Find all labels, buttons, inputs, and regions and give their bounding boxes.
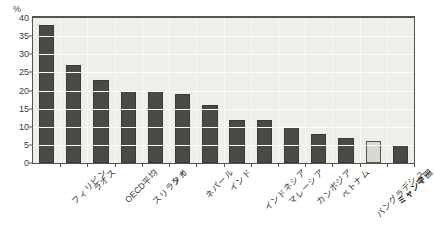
y-axis-tick-mark (29, 126, 33, 127)
bar (39, 25, 54, 163)
y-axis-tick-mark (29, 163, 33, 164)
gridline-vertical (115, 18, 116, 163)
y-axis-tick-label: 40 (19, 13, 29, 23)
y-axis-tick-label: 35 (19, 31, 29, 41)
gridline-vertical (305, 18, 306, 163)
plot-area: 0510152025303540 (32, 16, 415, 164)
bar (202, 105, 217, 163)
gridline-vertical (87, 18, 88, 163)
y-axis-tick-mark (29, 108, 33, 109)
y-axis-tick-mark (29, 90, 33, 91)
y-axis-tick-label: 20 (19, 86, 29, 96)
y-axis-tick-mark (29, 36, 33, 37)
gridline-vertical (332, 18, 333, 163)
gridline-vertical (251, 18, 252, 163)
y-axis-tick-label: 30 (19, 49, 29, 59)
y-axis-tick-label: 15 (19, 104, 29, 114)
gridline-vertical (360, 18, 361, 163)
gridline-vertical (387, 18, 388, 163)
gridline-vertical (169, 18, 170, 163)
y-axis-tick-label: 10 (19, 122, 29, 132)
y-axis-tick-label: 25 (19, 67, 29, 77)
y-axis-tick-mark (29, 144, 33, 145)
x-axis-tick-label: ラオス (90, 166, 118, 194)
gridline-vertical (278, 18, 279, 163)
bar (393, 145, 408, 163)
bar (93, 80, 108, 163)
gridline-vertical (224, 18, 225, 163)
y-axis-tick-mark (29, 54, 33, 55)
bar (338, 138, 353, 163)
bar (66, 65, 81, 163)
bar (311, 134, 326, 163)
bar (175, 94, 190, 163)
y-axis-tick-mark (29, 72, 33, 73)
x-axis-labels: フィリピンラオスOECD平均スリランカタイネパールインドインドネシアマレーシアカ… (32, 166, 415, 237)
gridline-vertical (60, 18, 61, 163)
gridline-vertical (196, 18, 197, 163)
gridline-vertical (142, 18, 143, 163)
